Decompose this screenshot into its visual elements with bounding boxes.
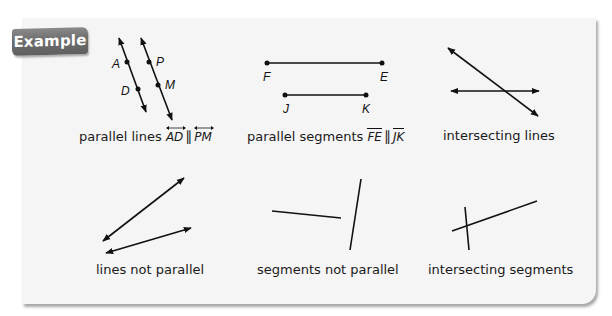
- parallel-symbol: ∥: [384, 128, 391, 144]
- line-notation-pm: PM: [194, 130, 212, 144]
- caption-intersecting-lines: intersecting lines: [443, 128, 555, 143]
- line-notation-ad: AD: [166, 130, 183, 144]
- double-arrow-icon: [166, 125, 186, 131]
- parallel-segments-figure: F E J K: [263, 61, 389, 117]
- caption-text: parallel segments: [247, 129, 363, 144]
- caption-text: parallel lines: [79, 129, 162, 144]
- point-label-e: E: [380, 70, 389, 84]
- parallel-lines-figure: A D P M: [111, 38, 175, 120]
- caption-intersecting-segments: intersecting segments: [428, 262, 573, 277]
- point-label-a: A: [111, 57, 120, 71]
- segment-notation-jk: JK: [393, 128, 404, 144]
- double-arrow-icon: [194, 125, 214, 131]
- point-label-p: P: [156, 55, 164, 69]
- caption-segments-not-parallel: segments not parallel: [257, 262, 399, 277]
- caption-lines-not-parallel: lines not parallel: [96, 262, 204, 277]
- intersecting-segments-figure: [452, 201, 537, 250]
- segments-not-parallel-figure: [272, 179, 361, 250]
- point-label-m: M: [165, 78, 175, 92]
- parallel-symbol: ∥: [185, 128, 192, 144]
- caption-parallel-lines: parallel lines AD ∥ PM: [79, 128, 212, 144]
- caption-parallel-segments: parallel segments FE∥JK: [247, 128, 404, 144]
- point-label-k: K: [362, 102, 371, 116]
- point-label-d: D: [121, 84, 130, 98]
- lines-not-parallel-figure: [103, 178, 191, 253]
- segment-notation-fe: FE: [367, 128, 381, 144]
- point-label-j: J: [282, 102, 290, 116]
- intersecting-lines-figure: [448, 48, 539, 116]
- point-label-f: F: [263, 70, 271, 84]
